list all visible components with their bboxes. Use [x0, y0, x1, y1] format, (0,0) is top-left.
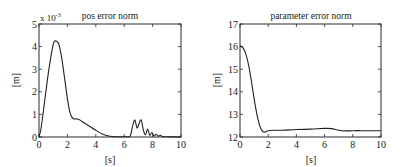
parameter-error-chart: parameter error norm 0246810121314151617…	[211, 11, 386, 165]
x-axis-label: [s]	[105, 154, 116, 165]
x-tick-label: 10	[376, 139, 386, 150]
x-tick-label: 6	[122, 139, 127, 150]
x-tick-label: 2	[65, 139, 70, 150]
pos-error-chart: pos error norm x 10-3 0246810012345 [s] …	[10, 11, 186, 165]
x-tick-label: 4	[294, 139, 299, 150]
x-tick-label: 8	[150, 139, 155, 150]
y-tick-label: 1	[32, 109, 37, 120]
y-tick-label: 4	[32, 41, 37, 52]
pos-error-line	[39, 41, 181, 137]
plot-area	[240, 24, 381, 137]
y-tick-label: 2	[32, 86, 37, 97]
x-tick-label: 6	[322, 139, 327, 150]
y-axis-label: [m]	[211, 73, 222, 87]
x-tick-label: 0	[238, 139, 243, 150]
x-tick-label: 2	[266, 139, 271, 150]
y-multiplier: x 10-3	[40, 12, 61, 23]
y-tick-label: 14	[228, 86, 238, 97]
x-tick-label: 4	[93, 139, 98, 150]
x-tick-label: 8	[350, 139, 355, 150]
y-tick-label: 3	[32, 64, 37, 75]
y-tick-label: 16	[228, 41, 238, 52]
y-tick-label: 15	[228, 64, 238, 75]
figure: pos error norm x 10-3 0246810012345 [s] …	[0, 0, 404, 167]
x-tick-label: 0	[37, 139, 42, 150]
x-tick-label: 10	[176, 139, 186, 150]
parameter-error-line	[240, 46, 381, 133]
y-tick-label: 13	[228, 109, 238, 120]
axis-ticks: 0246810012345	[32, 19, 186, 151]
y-tick-label: 12	[228, 132, 238, 143]
chart-title: pos error norm	[82, 11, 139, 21]
y-tick-label: 17	[228, 19, 238, 30]
chart-title: parameter error norm	[270, 11, 352, 21]
y-tick-label: 0	[32, 132, 37, 143]
plot-area	[39, 24, 181, 137]
x-axis-label: [s]	[306, 154, 317, 165]
y-tick-label: 5	[32, 19, 37, 30]
y-axis-label: [m]	[10, 73, 21, 87]
